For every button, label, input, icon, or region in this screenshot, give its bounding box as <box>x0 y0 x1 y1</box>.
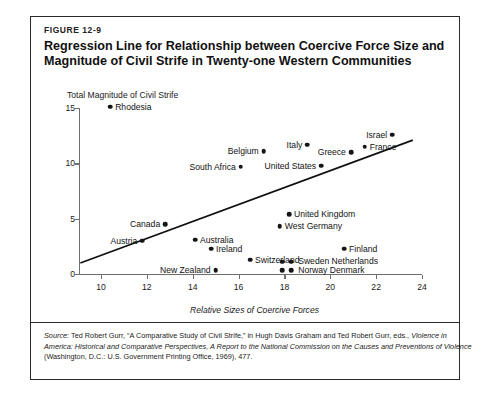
data-point-label: France <box>370 142 397 152</box>
data-point-label: Austria <box>111 236 138 246</box>
source-line-1: Source: Ted Robert Gurr, “A Comparative … <box>44 331 446 342</box>
data-point <box>209 246 214 251</box>
data-point <box>140 239 145 244</box>
data-point-label: Ireland <box>216 244 242 254</box>
regression-line <box>31 17 461 317</box>
data-point <box>239 164 244 169</box>
figure-panel: FIGURE 12-9 Regression Line for Relation… <box>30 16 460 380</box>
data-point-label: West Germany <box>285 221 342 231</box>
section-divider <box>31 322 459 323</box>
data-point-label: United States <box>265 161 317 171</box>
source-line-1-text: Ted Robert Gurr, “A Comparative Study of… <box>69 331 411 340</box>
source-label: Source: <box>44 331 69 340</box>
cluster-label: Norway Denmark <box>298 265 364 275</box>
data-point-label: Greece <box>318 147 346 157</box>
data-point <box>362 144 367 149</box>
data-point <box>278 224 283 229</box>
data-point-label: Rhodesia <box>115 102 151 112</box>
data-point <box>342 246 347 251</box>
data-point <box>289 268 294 273</box>
data-point-label: Belgium <box>228 146 259 156</box>
data-point <box>280 260 285 265</box>
data-point <box>193 237 198 242</box>
source-title-part-1: Violence in <box>411 331 447 340</box>
data-point <box>163 222 168 227</box>
data-point <box>280 268 285 273</box>
data-point-label: Finland <box>349 244 377 254</box>
data-point <box>349 150 354 155</box>
data-point-label: New Zealand <box>160 265 211 275</box>
source-line-3: (Washington, D.C.: U.S. Government Print… <box>44 352 446 363</box>
data-point <box>213 268 218 273</box>
data-point <box>305 142 310 147</box>
data-point <box>390 132 395 137</box>
data-point <box>289 260 294 265</box>
data-point <box>108 105 113 110</box>
data-point <box>248 257 253 262</box>
source-note: Source: Ted Robert Gurr, “A Comparative … <box>44 331 446 363</box>
data-point <box>287 212 292 217</box>
data-point-label: Italy <box>287 140 303 150</box>
data-point-label: Canada <box>130 219 160 229</box>
data-point-label: United Kingdom <box>294 209 355 219</box>
data-point <box>319 163 324 168</box>
data-point-label: Israel <box>366 130 387 140</box>
data-point <box>261 149 266 154</box>
source-title-part-2: America: Historical and Comparative Pers… <box>44 342 472 351</box>
scatter-plot: Total Magnitude of Civil Strife Relative… <box>31 17 461 317</box>
source-line-2: America: Historical and Comparative Pers… <box>44 342 446 353</box>
data-point-label: South Africa <box>190 162 236 172</box>
